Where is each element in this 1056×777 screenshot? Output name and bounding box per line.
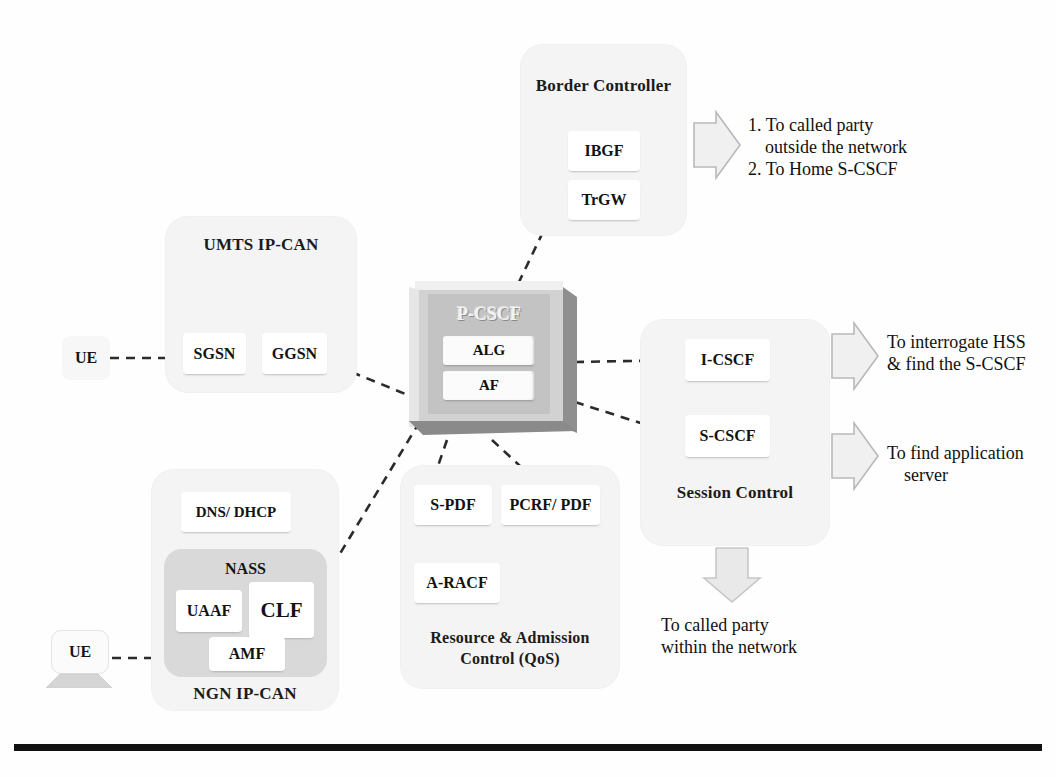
annotation-border-out-line1: 1. To called party <box>748 115 907 137</box>
node-af[interactable]: AF <box>443 371 535 400</box>
annotation-scscf-out: To find application server <box>887 443 1024 487</box>
endpoint-ue-umts[interactable]: UE <box>62 336 110 380</box>
annotation-border-out-line2: outside the network <box>748 137 907 159</box>
annotation-session-down-line2: within the network <box>661 637 797 659</box>
group-border-label: Border Controller <box>521 76 686 96</box>
annotation-icscf-out-line2: & find the S-CSCF <box>887 354 1026 376</box>
group-session-label: Session Control <box>641 483 829 503</box>
node-i-cscf-label: I-CSCF <box>701 351 754 369</box>
ue-monitor-stand-icon <box>38 630 122 688</box>
node-s-pdf[interactable]: S-PDF <box>414 485 492 525</box>
node-af-label: AF <box>479 377 499 394</box>
annotation-scscf-out-line2: server <box>887 465 1024 487</box>
node-ibgf[interactable]: IBGF <box>568 131 640 171</box>
core-pcscf-block[interactable]: P-CSCF ALG AF <box>409 281 577 441</box>
arrow-border-out <box>694 112 740 178</box>
node-s-cscf-label: S-CSCF <box>699 427 755 445</box>
annotation-icscf-out-line1: To interrogate HSS <box>887 332 1026 354</box>
node-ibgf-label: IBGF <box>584 142 623 160</box>
group-ngn-ip-can: DNS/ DHCP NASS UAAF CLF AMF NGN IP-CAN <box>152 470 338 710</box>
node-ggsn-label: GGSN <box>272 345 317 363</box>
node-sgsn[interactable]: SGSN <box>183 333 246 374</box>
annotation-border-out: 1. To called party outside the network 2… <box>748 115 907 181</box>
pcscf-bevel-top <box>415 281 563 290</box>
node-dns-dhcp[interactable]: DNS/ DHCP <box>181 492 291 532</box>
node-amf[interactable]: AMF <box>209 637 285 671</box>
node-dns-dhcp-label: DNS/ DHCP <box>196 504 276 521</box>
node-s-pdf-label: S-PDF <box>430 496 475 514</box>
annotation-session-down: To called party within the network <box>661 615 797 659</box>
node-pcrf-pdf[interactable]: PCRF/ PDF <box>501 485 600 525</box>
group-ngn-label: NGN IP-CAN <box>152 684 338 704</box>
arrow-session-down <box>704 548 760 602</box>
footer-rule <box>14 744 1042 751</box>
node-a-racf-label: A-RACF <box>426 574 487 592</box>
annotation-scscf-out-line1: To find application <box>887 443 1024 465</box>
node-alg[interactable]: ALG <box>443 336 535 365</box>
group-nass: NASS UAAF CLF AMF <box>164 549 327 677</box>
annotation-icscf-out: To interrogate HSS & find the S-CSCF <box>887 332 1026 376</box>
node-sgsn-label: SGSN <box>194 345 236 363</box>
pcscf-title: P-CSCF <box>428 304 550 325</box>
group-border-controller: Border Controller IBGF TrGW <box>521 45 686 235</box>
node-alg-label: ALG <box>473 342 506 359</box>
group-umts-label: UMTS IP-CAN <box>166 235 356 255</box>
annotation-border-out-line3: 2. To Home S-CSCF <box>748 159 907 181</box>
pcscf-bevel-left <box>409 281 419 427</box>
node-i-cscf[interactable]: I-CSCF <box>685 339 770 381</box>
annotation-session-down-line1: To called party <box>661 615 797 637</box>
node-a-racf[interactable]: A-RACF <box>414 563 500 603</box>
endpoint-ue-umts-label: UE <box>75 349 97 367</box>
node-amf-label: AMF <box>229 645 265 663</box>
diagram-canvas: UMTS IP-CAN SGSN GGSN UE Border Controll… <box>0 0 1056 777</box>
group-nass-label: NASS <box>164 560 327 578</box>
pcscf-bevel-bottom <box>409 421 577 435</box>
node-ggsn[interactable]: GGSN <box>262 333 327 374</box>
endpoint-ue-ngn[interactable]: UE <box>38 630 122 688</box>
group-rac-label-line1: Resource & Admission <box>401 629 619 647</box>
pcscf-bevel-right <box>563 287 577 433</box>
arrow-scscf-out <box>832 423 878 489</box>
pcscf-face: P-CSCF ALG AF <box>428 294 550 414</box>
node-s-cscf[interactable]: S-CSCF <box>685 415 770 457</box>
node-trgw-label: TrGW <box>581 191 626 209</box>
node-uaaf-label: UAAF <box>187 602 231 620</box>
node-clf-label: CLF <box>261 598 303 623</box>
node-pcrf-pdf-label: PCRF/ PDF <box>509 496 591 514</box>
group-resource-admission-control: S-PDF PCRF/ PDF A-RACF Resource & Admiss… <box>401 466 619 688</box>
group-session-control: I-CSCF S-CSCF Session Control <box>641 320 829 545</box>
group-umts-ip-can: UMTS IP-CAN SGSN GGSN <box>166 217 356 392</box>
arrow-icscf-out <box>832 323 878 389</box>
node-uaaf[interactable]: UAAF <box>176 590 242 632</box>
node-trgw[interactable]: TrGW <box>568 180 640 220</box>
group-rac-label-line2: Control (QoS) <box>401 650 619 668</box>
link-border-pcscf <box>519 232 543 282</box>
node-clf[interactable]: CLF <box>249 582 314 638</box>
